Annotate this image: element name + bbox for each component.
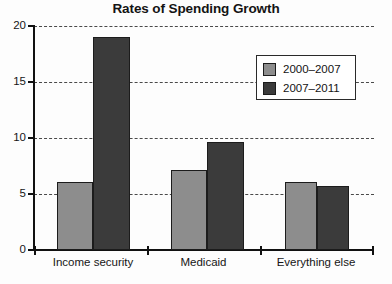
bar-medicaid-2000-2007[interactable] <box>171 170 207 250</box>
chart-legend: 2000–2007 2007–2011 <box>256 55 356 100</box>
bar-chart: Rates of Spending Growth 20 15 10 5 0 In… <box>0 0 392 284</box>
legend-item-2007-2011[interactable]: 2007–2011 <box>263 79 340 97</box>
x-axis-label-everything-else: Everything else <box>259 256 373 268</box>
legend-label-2000-2007: 2000–2007 <box>283 63 341 75</box>
bar-medicaid-2007-2011[interactable] <box>207 142 244 250</box>
y-axis-label-15: 15 <box>2 75 26 87</box>
y-axis-label-5: 5 <box>2 187 26 199</box>
x-axis-label-income-security: Income security <box>33 256 153 268</box>
bar-everything-else-2007-2011[interactable] <box>317 186 349 250</box>
x-axis-label-medicaid: Medicaid <box>147 256 260 268</box>
bar-everything-else-2000-2007[interactable] <box>285 182 317 250</box>
legend-swatch-2000-2007 <box>263 63 276 76</box>
y-axis-label-20: 20 <box>2 19 26 31</box>
chart-title: Rates of Spending Growth <box>0 1 392 16</box>
y-axis-labels: 20 15 10 5 0 <box>0 0 26 284</box>
bar-income-security-2007-2011[interactable] <box>93 37 130 250</box>
y-axis-label-10: 10 <box>2 131 26 143</box>
legend-label-2007-2011: 2007–2011 <box>283 82 340 94</box>
legend-swatch-2007-2011 <box>263 82 276 95</box>
y-axis-label-0: 0 <box>2 243 26 255</box>
legend-item-2000-2007[interactable]: 2000–2007 <box>263 60 341 78</box>
bar-income-security-2000-2007[interactable] <box>57 182 93 250</box>
